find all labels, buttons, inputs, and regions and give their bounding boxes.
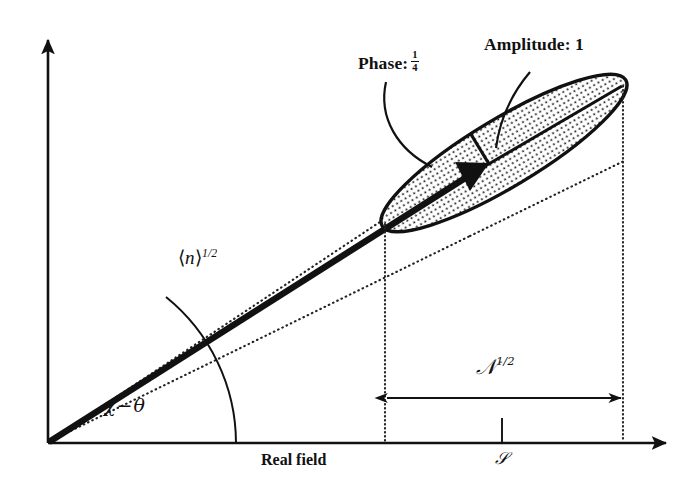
mean-photon-symbol: n bbox=[185, 247, 195, 268]
width-script-n: 𝒩 bbox=[476, 355, 496, 379]
angle-theta-symbol: θ bbox=[133, 394, 144, 416]
mean-photon-exponent: 1/2 bbox=[202, 247, 217, 260]
uncertainty-ellipse bbox=[365, 51, 643, 256]
width-exponent: 1/2 bbox=[496, 354, 515, 368]
phase-callout-label: Phase:14 bbox=[358, 50, 419, 73]
angle-minus-operator: − bbox=[116, 394, 134, 416]
uncertainty-ellipse-group bbox=[365, 51, 643, 256]
bra-bracket: ⟨ bbox=[178, 247, 185, 268]
x-axis-caption: Real field bbox=[261, 452, 326, 468]
ket-bracket: ⟩ bbox=[195, 247, 202, 268]
angle-label: χ−θ bbox=[104, 396, 145, 415]
angle-chi-symbol: χ bbox=[104, 394, 116, 416]
amplitude-callout-label: Amplitude: 1 bbox=[484, 36, 584, 54]
s-tick-label: 𝒮 bbox=[495, 450, 508, 467]
angle-arc bbox=[166, 297, 236, 443]
diagram-canvas bbox=[0, 0, 700, 491]
phase-fraction: 14 bbox=[411, 50, 418, 73]
phase-callout-text: Phase: bbox=[358, 53, 408, 73]
phase-fraction-denominator: 4 bbox=[411, 62, 418, 73]
mean-photon-number-label: ⟨n⟩1/2 bbox=[178, 248, 217, 268]
phase-space-diagram: Phase:14 Amplitude: 1 ⟨n⟩1/2 χ−θ Real fi… bbox=[0, 0, 700, 491]
phase-fraction-numerator: 1 bbox=[411, 50, 418, 62]
phase-callout-leader-line bbox=[384, 82, 432, 167]
width-symbol-label: 𝒩1/2 bbox=[476, 356, 515, 378]
